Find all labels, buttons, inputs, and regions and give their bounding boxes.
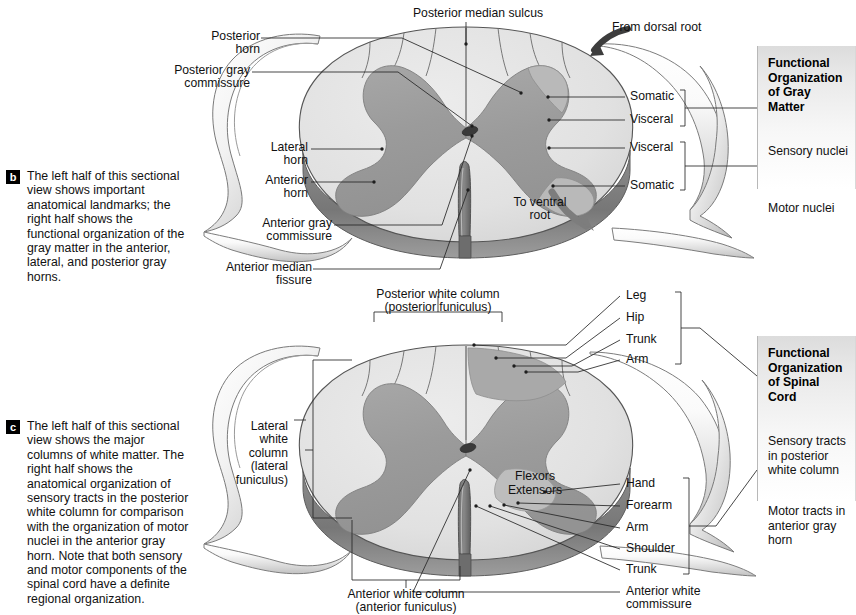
central-canal-b — [461, 125, 479, 137]
infobox-gray-matter-motor: Motor nuclei — [768, 201, 834, 216]
label-motor-arm: Arm — [626, 521, 696, 534]
label-anterior-horn: Anterior horn — [216, 174, 308, 201]
panel-marker-c: c — [6, 420, 20, 434]
label-from-dorsal-root: From dorsal root — [612, 21, 742, 34]
label-motor-trunk: Trunk — [626, 563, 696, 576]
left-ventral-root-c — [204, 544, 352, 574]
infobox-gray-matter: Functional Organization of Gray Matter S… — [757, 46, 856, 189]
label-anterior-median-fissure: Anterior median fissure — [196, 261, 312, 288]
label-extensors: Extensors — [494, 484, 576, 497]
posterior-scallops-c — [362, 346, 570, 452]
gray-matter-left-b — [336, 66, 466, 217]
label-anterior-white-commissure: Anterior white commissure — [626, 585, 746, 612]
anterior-white-column-bracket — [352, 520, 460, 588]
label-lateral-white-column: Lateral white column (lateral funiculus) — [222, 420, 288, 487]
right-ventral-root-b — [612, 228, 754, 258]
caption-c: c The left half of this sectional view s… — [6, 419, 192, 606]
infobox-spinal-cord: Functional Organization of Spinal Cord S… — [757, 336, 856, 501]
right-ganglion-c — [690, 380, 734, 552]
lateral-white-column-bracket — [305, 360, 352, 518]
label-posterior-gray-commissure: Posterior gray commissure — [140, 64, 250, 91]
infobox-spinal-cord-motor: Motor tracts in anterior gray horn — [768, 504, 845, 548]
label-posterior-median-sulcus: Posterior median sulcus — [404, 7, 552, 20]
label-visceral-sensory: Visceral — [630, 113, 690, 126]
gray-matter-right-b — [466, 66, 596, 217]
caption-c-text: The left half of this sectional view sho… — [27, 419, 192, 606]
panel-marker-b: b — [6, 170, 20, 184]
label-somatic-motor: Somatic — [630, 179, 690, 192]
anterior-median-fissure-b — [458, 162, 470, 237]
label-posterior-horn: Posterior horn — [168, 30, 260, 57]
white-matter-c — [299, 345, 632, 560]
posterior-scallops-b — [362, 28, 570, 134]
anterior-median-fissure-c — [458, 480, 470, 555]
infobox-gray-matter-sensory: Sensory nuclei — [768, 144, 848, 159]
white-matter-b — [299, 27, 632, 242]
label-sensory-leg: Leg — [626, 289, 686, 302]
label-motor-forearm: Forearm — [626, 499, 704, 512]
right-ganglion-b — [690, 66, 732, 238]
gray-matter-right-c — [466, 384, 596, 535]
label-sensory-trunk: Trunk — [626, 333, 686, 346]
central-canal-c — [459, 442, 477, 454]
infobox-spinal-cord-sensory: Sensory tracts in posterior white column — [768, 434, 846, 478]
label-to-ventral-root: To ventral root — [498, 196, 582, 223]
caption-b-text: The left half of this sectional view sho… — [27, 169, 188, 284]
somatic-sensory-zone-b — [528, 66, 568, 113]
label-lateral-horn: Lateral horn — [220, 141, 308, 168]
label-sensory-hip: Hip — [626, 311, 686, 324]
spinal-cord-figure: Posterior horn Posterior gray commissure… — [0, 0, 856, 615]
infobox-gray-matter-title: Functional Organization of Gray Matter — [768, 56, 847, 114]
label-flexors: Flexors — [500, 470, 570, 483]
sensory-tract-band-c — [468, 348, 566, 401]
leader-dots-left-b — [372, 91, 522, 191]
label-somatic-sensory: Somatic — [630, 90, 690, 103]
gray-matter-left-c — [336, 384, 466, 535]
label-posterior-white-column: Posterior white column (posterior funicu… — [352, 288, 524, 315]
label-anterior-white-column: Anterior white column (anterior funiculu… — [318, 588, 494, 615]
label-sensory-arm: Arm — [626, 353, 686, 366]
caption-b: b The left half of this sectional view s… — [6, 169, 188, 284]
label-motor-shoulder: Shoulder — [626, 542, 706, 555]
label-motor-hand: Hand — [626, 477, 696, 490]
cord-rim-c — [303, 468, 630, 576]
label-anterior-gray-commissure: Anterior gray commissure — [216, 217, 332, 244]
infobox-spinal-cord-title: Functional Organization of Spinal Cord — [768, 346, 847, 404]
label-visceral-motor: Visceral — [630, 141, 690, 154]
